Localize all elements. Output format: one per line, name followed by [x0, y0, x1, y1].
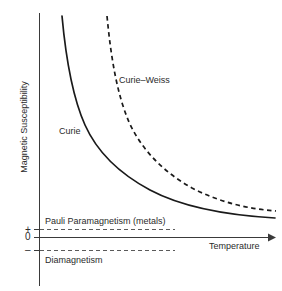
diamagnetism-label: Diamagnetism — [45, 255, 103, 266]
magnetic-susceptibility-figure: Magnetic Susceptibility + 0 – Temperatur… — [0, 0, 282, 291]
y-tick-label-zero: 0 — [25, 231, 31, 242]
pauli-paramagnetism-label: Pauli Paramagnetism (metals) — [45, 216, 166, 227]
y-tick-label-minus: – — [25, 244, 31, 255]
curie-weiss-curve-label: Curie–Weiss — [119, 75, 170, 86]
x-axis-label: Temperature — [209, 241, 260, 252]
curie-curve — [62, 16, 275, 218]
x-axis-arrow-icon — [268, 234, 276, 242]
curie-weiss-curve — [107, 16, 276, 211]
curie-curve-label: Curie — [59, 126, 81, 137]
y-axis-label: Magnetic Susceptibility — [19, 57, 29, 197]
